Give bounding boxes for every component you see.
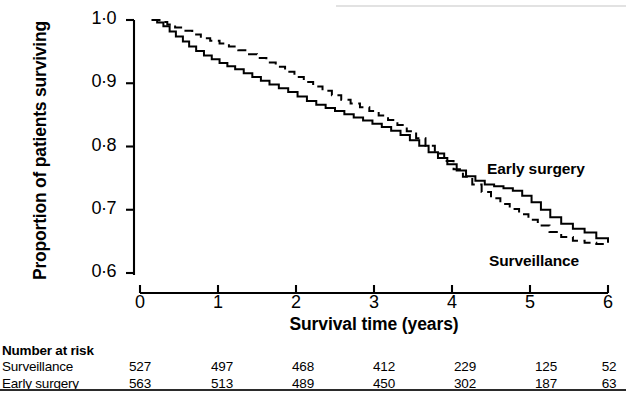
y-tick-label: 0·8	[70, 135, 116, 156]
series-label-early-surgery: Early surgery	[487, 160, 585, 178]
risk-cell: 52	[589, 359, 626, 374]
series-label-surveillance: Surveillance	[489, 252, 579, 270]
table-row: Surveillance 527 497 468 412 229 125 52	[0, 359, 626, 376]
risk-table-title: Number at risk	[2, 343, 94, 358]
x-tick-label: 2	[281, 292, 311, 313]
survival-curves	[152, 20, 608, 245]
y-tick-label: 0·6	[70, 261, 116, 282]
curve-surveillance	[152, 20, 608, 245]
risk-cell: 527	[120, 359, 160, 374]
y-tick-label: 0·7	[70, 198, 116, 219]
x-tick-label: 5	[515, 292, 545, 313]
risk-row-label: Surveillance	[2, 359, 73, 374]
risk-cell: 468	[283, 359, 323, 374]
risk-cell: 229	[445, 359, 485, 374]
x-tick-label: 4	[437, 292, 467, 313]
y-axis-label: Proportion of patients surviving	[30, 16, 51, 286]
y-axis-ticks	[126, 20, 134, 273]
x-axis-label: Survival time (years)	[140, 314, 608, 335]
x-tick-label: 6	[593, 292, 623, 313]
y-tick-label: 0·9	[70, 71, 116, 92]
table-bottom-rule	[0, 389, 626, 391]
curve-early-surgery	[152, 20, 608, 243]
risk-cell: 125	[526, 359, 566, 374]
x-tick-label: 3	[359, 292, 389, 313]
risk-cell: 412	[364, 359, 404, 374]
x-tick-label: 0	[125, 292, 155, 313]
y-tick-label: 1·0	[70, 8, 116, 29]
x-tick-label: 1	[203, 292, 233, 313]
risk-cell: 497	[202, 359, 242, 374]
survival-curve-figure: Proportion of patients surviving Surviva…	[0, 0, 626, 396]
